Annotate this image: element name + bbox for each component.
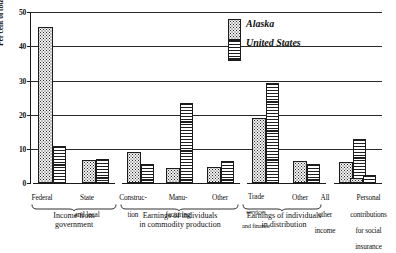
cat-label-manufacturing-line1: Manu- [156,194,200,202]
cat-label-personal-line2: contributions [341,211,396,219]
group-baseline-1 [33,183,115,184]
y-tick-10: 10 [6,145,26,154]
group-baseline-2 [122,183,240,184]
group-caption-commodity-production: Earnings of individuals in commodity pro… [118,211,242,229]
y-tick-mark-0 [27,183,30,184]
group-baseline-5 [345,183,382,184]
y-tick-20: 20 [6,111,26,120]
legend-label-united-states: United States [246,37,301,48]
legend-label-alaska: Alaska [246,18,274,29]
bar-federal-united-states [53,146,66,183]
brace-income-from-government [31,204,117,210]
cat-label-construction-line1: Construc- [110,194,156,202]
bar-commodity-other-alaska [207,167,221,183]
bar-distribution-other-united-states [307,164,320,183]
bar-personal-contributions-united-states [363,175,376,183]
bar-commodity-other-united-states [221,161,234,183]
legend-swatch-united-states [228,40,241,61]
cat-label-state-line1: State [62,194,112,202]
bar-federal-alaska [38,27,53,183]
bar-construction-alaska [127,152,141,183]
bar-trade-services-alaska [252,118,266,183]
cat-label-personal-line1: Personal [341,194,396,202]
legend-swatch-alaska [228,19,241,40]
bar-state-and-local-alaska [82,160,96,183]
legend-label-united-states-text: United States [246,37,301,48]
y-tick-30: 30 [6,77,26,86]
cat-label-federal-line1: Federal [22,194,62,202]
bar-construction-united-states [141,164,154,183]
legend: Alaska United States [228,19,338,63]
bar-manufacturing-alaska [166,168,180,183]
bar-state-and-local-united-states [96,159,109,183]
group-caption-income-from-government: Income from government [28,211,120,229]
group-caption-distribution: Earnings of individuals in distribution [238,211,330,229]
cat-label-trade-line1: Trade [232,193,280,200]
brace-commodity-production [120,204,239,210]
bar-manufacturing-united-states [180,103,193,183]
bar-trade-services-united-states [266,83,279,183]
y-tick-50: 50 [6,8,26,17]
y-axis-label: Per cent of total income, 1959 [0,0,5,46]
y-tick-40: 40 [6,42,26,51]
bar-distribution-other-alaska [293,161,307,183]
brace-distribution [242,204,322,210]
group-baseline-3 [247,183,326,184]
cat-label-personal-contributions: Personal contributions for social insura… [341,186,396,253]
cat-label-personal-line4: insurance [341,243,396,251]
cat-label-personal-line3: for social [341,227,396,235]
